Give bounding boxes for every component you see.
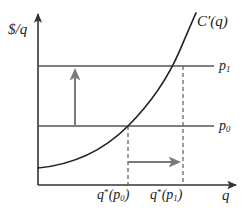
price-label-p0: p0: [219, 119, 230, 133]
marginal-cost-figure: $/q q C′(q) p1 p0 q*(p0) q*(p1): [0, 0, 246, 222]
quantity-label-p1-base: q: [150, 187, 157, 202]
axes-group: [38, 14, 236, 185]
price-label-p1-base: p: [219, 58, 226, 73]
x-axis-label: q: [222, 188, 230, 203]
price-label-p0-base: p: [219, 118, 226, 133]
y-axis-label: $/q: [8, 22, 27, 37]
curve-label-text: C′(q): [197, 13, 228, 29]
marginal-cost-curve: [38, 13, 196, 168]
price-label-p0-sub: 0: [226, 124, 230, 134]
quantity-label-q-star-p1: q*(p1): [150, 188, 182, 202]
price-label-p1: p1: [219, 59, 230, 73]
price-label-p1-sub: 1: [226, 64, 230, 74]
quantity-label-p0-paren-close: ): [125, 187, 130, 202]
price-lines-group: [38, 66, 214, 126]
quantity-label-p0-base: q: [97, 187, 104, 202]
quantity-label-p1-paren-close: ): [178, 187, 183, 202]
quantity-label-q-star-p0: q*(p0): [97, 188, 129, 202]
curve-label: C′(q): [197, 14, 228, 29]
